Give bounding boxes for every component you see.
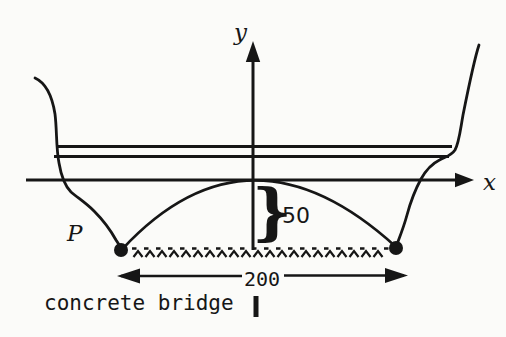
span-arrow-right-head-icon	[385, 268, 408, 283]
x-axis-label: x	[483, 169, 496, 195]
y-axis-label: y	[233, 19, 248, 45]
left-arch-endpoint-dot	[114, 243, 128, 257]
y-axis-arrowhead-icon	[246, 41, 260, 62]
bridge-figure: y x P } 50 200 concrete bridge	[0, 0, 506, 337]
bridge-diagram-canvas: y x P } 50 200 concrete bridge	[0, 0, 506, 337]
x-axis-arrowhead-icon	[455, 173, 474, 187]
figure-caption: concrete bridge	[44, 291, 234, 315]
right-arch-endpoint-dot	[389, 241, 403, 255]
span-value-label: 200	[244, 267, 280, 291]
water-surface-chevrons	[134, 251, 383, 257]
point-p-label: P	[66, 220, 83, 246]
span-arrow-left-head-icon	[117, 269, 140, 284]
depth-value-label: 50	[282, 203, 310, 228]
